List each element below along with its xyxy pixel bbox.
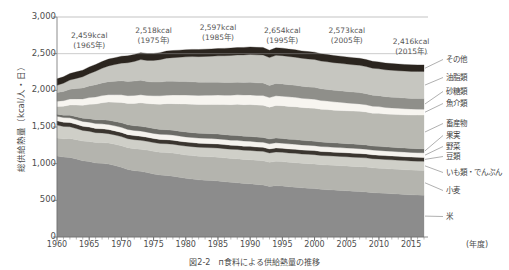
legend-item-label: 畜産物 [446, 119, 467, 128]
legend-leader-lines [425, 60, 443, 217]
y-axis-tick-label: 1,000 [22, 159, 56, 168]
legend-item-label: いも類・でんぷん [446, 168, 502, 177]
annotation-year: (2005年) [320, 36, 374, 46]
legend-item-label: 油脂類 [446, 73, 467, 82]
figure-caption: 図2-2 п食料による供給熱量の推移 [0, 258, 509, 268]
total-calorie-annotation: 2,518kcal(1975年) [127, 26, 181, 45]
legend-item-label: 米 [446, 212, 453, 221]
stacked-area-bands [57, 47, 424, 237]
legend-item-label: 魚介類 [446, 99, 467, 108]
legend-item-label: 豆類 [446, 152, 460, 161]
annotation-value: 2,518kcal [127, 26, 181, 36]
chart-figure: 総供給熱量（kcal/人・日） 3,0002,5002,0001,5001,00… [0, 0, 509, 270]
annotation-year: (1965年) [62, 41, 116, 51]
total-calorie-annotation: 2,654kcal(1995年) [255, 26, 309, 45]
annotation-value: 2,416kcal [384, 37, 438, 47]
x-axis-ticks: 1960196519701975198019851990199520002005… [0, 240, 509, 254]
legend-item-label: 小麦 [446, 186, 460, 195]
annotation-year: (1995年) [255, 36, 309, 46]
annotation-year: (1985年) [191, 33, 245, 43]
total-calorie-annotation: 2,597kcal(1985年) [191, 23, 245, 42]
total-calorie-annotation: 2,416kcal(2015年) [384, 37, 438, 56]
legend-item-label: 野菜 [446, 142, 460, 151]
y-axis-tick-label: 2,000 [22, 85, 56, 94]
annotation-value: 2,654kcal [255, 26, 309, 36]
annotation-value: 2,573kcal [320, 26, 374, 36]
x-axis-tick-label: 2015 [391, 240, 431, 249]
y-axis-tick-label: 500 [22, 195, 56, 204]
y-axis-ticks: 3,0002,5002,0001,5001,0005000 [18, 0, 56, 270]
annotation-value: 2,459kcal [62, 31, 116, 41]
y-axis-tick-label: 1,500 [22, 122, 56, 131]
x-axis-unit: (年度) [466, 240, 488, 249]
total-calorie-annotation: 2,459kcal(1965年) [62, 31, 116, 50]
annotation-value: 2,597kcal [191, 23, 245, 33]
legend-item-label: 砂糖類 [446, 87, 467, 96]
annotation-year: (2015年) [384, 47, 438, 57]
total-calorie-annotation: 2,573kcal(2005年) [320, 26, 374, 45]
legend-item-label: その他 [446, 55, 467, 64]
legend-item-label: 果実 [446, 131, 460, 140]
y-axis-tick-label: 2,500 [22, 49, 56, 58]
y-axis-tick-label: 3,000 [22, 12, 56, 21]
annotation-year: (1975年) [127, 36, 181, 46]
